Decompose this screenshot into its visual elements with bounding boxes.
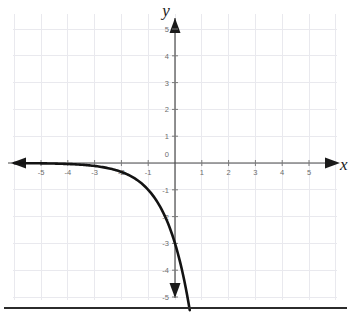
y-axis-tick-label: 4 <box>165 52 169 61</box>
x-axis-tick-label: 1 <box>200 168 204 177</box>
y-axis-tick-label: 3 <box>165 79 169 88</box>
y-axis-tick-label: 2 <box>165 105 169 114</box>
x-axis-tick-label: -4 <box>64 168 71 177</box>
x-axis-label: x <box>339 155 348 174</box>
x-axis-tick-label: -5 <box>38 168 45 177</box>
y-axis-label: y <box>160 1 170 20</box>
x-axis-tick-label: 2 <box>227 168 231 177</box>
y-axis-tick-label: 5 <box>165 25 169 34</box>
origin-tick-label: 0 <box>165 150 169 159</box>
x-axis-tick-label: -1 <box>145 168 152 177</box>
x-axis-tick-label: 3 <box>253 168 257 177</box>
y-axis-tick-label: -5 <box>162 293 169 302</box>
y-axis-tick-label: 1 <box>165 132 169 141</box>
x-axis-tick-label: 5 <box>307 168 311 177</box>
x-axis-tick-label: 4 <box>280 168 284 177</box>
y-axis-tick-label: -1 <box>162 186 169 195</box>
y-axis-tick-label: -3 <box>162 239 169 248</box>
coordinate-plane-figure: -5-4-3-2-112345 -5-4-3-2-112345 0 x y <box>0 0 351 317</box>
y-axis-tick-label: -4 <box>162 266 169 275</box>
x-axis-tick-label: -3 <box>91 168 98 177</box>
